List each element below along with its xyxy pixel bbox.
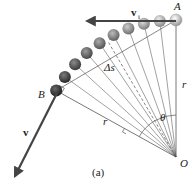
velocity-final-label: v [23, 126, 29, 138]
ball [59, 71, 71, 83]
radius-right-label: r [182, 78, 187, 90]
ball [122, 23, 134, 35]
velocity-initial-label: v [131, 6, 137, 18]
radial-lines [56, 20, 176, 157]
bisector-dashed-line [109, 42, 176, 157]
ball [81, 47, 93, 59]
velocity-initial-subscript: i [138, 13, 140, 21]
figure-caption: (a) [92, 166, 105, 179]
radial-line [114, 35, 176, 157]
origin-label: O [180, 157, 188, 169]
radial-line [56, 91, 176, 157]
angle-label: θ [160, 111, 166, 123]
point-a-label: A [173, 0, 181, 12]
radial-line [128, 29, 176, 157]
arc-length-label: Δs [103, 61, 115, 73]
radial-line [87, 53, 176, 157]
point-b-label: B [38, 88, 45, 100]
velocity-final-arrow [15, 93, 57, 176]
ball [69, 58, 81, 70]
radius-lower-label: r [103, 115, 108, 127]
circular-motion-diagram: v i A B Δs r r θ O v (a) [0, 0, 195, 190]
ball [94, 37, 106, 49]
ball [108, 29, 120, 41]
